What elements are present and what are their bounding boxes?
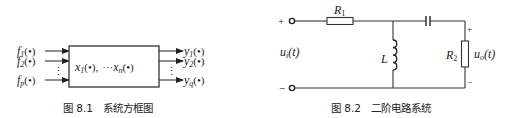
output-label-yq: yq(•) bbox=[183, 73, 205, 88]
inductor-label: L bbox=[380, 52, 388, 66]
output-plus-sign: + bbox=[467, 24, 472, 34]
inductor-l bbox=[393, 40, 397, 70]
input-plus-sign: + bbox=[278, 15, 284, 27]
input-minus-sign: − bbox=[279, 82, 285, 94]
resistor-r1 bbox=[327, 18, 353, 25]
output-voltage-label: uo(t) bbox=[474, 47, 495, 62]
r1-label: R1 bbox=[333, 3, 345, 18]
input-label-fp: fp(•) bbox=[17, 73, 36, 88]
input-label-f2: f2(•) bbox=[17, 54, 36, 69]
figure-8-1-caption: 图 8.1 系统方框图 bbox=[63, 102, 153, 114]
r2-label: R2 bbox=[445, 48, 457, 63]
figure-8-1-block-diagram: f1(•) f2(•) fp(•) ⋮ x1(•),···xn(•) ⋮ y1(… bbox=[17, 44, 205, 114]
input-terminal-bottom bbox=[289, 85, 294, 90]
input-voltage-label: ui(t) bbox=[280, 45, 300, 60]
output-label-y2: y2(•) bbox=[183, 54, 205, 69]
input-terminal-top bbox=[289, 18, 294, 23]
figure-8-2-caption: 图 8.2 二阶电路系统 bbox=[331, 102, 432, 114]
input-vdots: ⋮ bbox=[53, 65, 64, 77]
figure-8-2-circuit: + − R1 L R2 + − ui(t) uo(t) 图 8.2 二 bbox=[278, 3, 495, 114]
resistor-r2 bbox=[462, 41, 469, 67]
output-minus-sign: − bbox=[467, 77, 472, 87]
output-vdots: ⋮ bbox=[166, 65, 177, 77]
